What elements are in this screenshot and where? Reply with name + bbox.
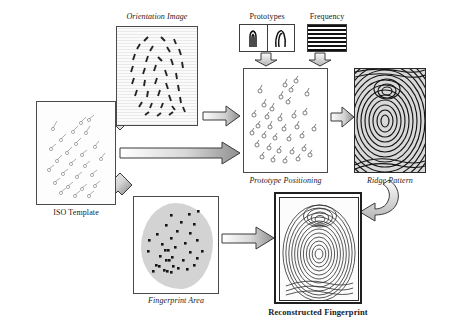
ridge-pattern-box [354, 68, 426, 173]
arch-prototype-glyph [240, 25, 268, 51]
arrow-ridge-to-reconstructed [360, 180, 398, 221]
arrow-iso-to-positioning [120, 142, 240, 164]
orientation-image-box [116, 26, 198, 126]
positioning-markers [244, 69, 327, 172]
prototypes-caption: Prototypes [239, 12, 295, 21]
frequency-box [307, 24, 347, 52]
arrow-orientation-to-positioning [203, 106, 240, 126]
prototype-positioning-caption: Prototype Positioning [232, 176, 339, 185]
prototypes-box [239, 24, 295, 52]
orientation-image-caption: Orientation Image [116, 12, 198, 21]
reconstructed-fingerprint-box [274, 192, 362, 304]
prototype-positioning-box [243, 68, 328, 173]
arrow-area-to-reconstructed [222, 227, 274, 249]
figure-canvas: ISO Template Orientation Image [0, 0, 451, 324]
iso-template-box [36, 101, 116, 205]
fingerprint-area-box [133, 196, 219, 294]
reconstructed-fingerprint-caption: Reconstructed Fingerprint [258, 307, 378, 317]
frequency-caption: Frequency [303, 12, 351, 21]
orientation-dashes [117, 27, 197, 125]
arrow-prototypes-to-positioning [255, 53, 277, 66]
reconstructed-ridges [280, 198, 358, 300]
ridge-pattern-caption: Ridge Pattern [354, 176, 426, 185]
iso-minutiae-plot [37, 102, 115, 204]
reconstructed-fingerprint-image [279, 197, 359, 301]
loop-prototype-glyph [268, 25, 295, 51]
arrow-positioning-to-ridge [331, 107, 354, 127]
fingerprint-area-caption: Fingerprint Area [133, 296, 219, 305]
arrow-frequency-to-positioning [309, 53, 331, 66]
iso-template-caption: ISO Template [36, 208, 116, 217]
ridge-flow-image [355, 69, 425, 172]
fingerprint-area-points [134, 197, 218, 293]
